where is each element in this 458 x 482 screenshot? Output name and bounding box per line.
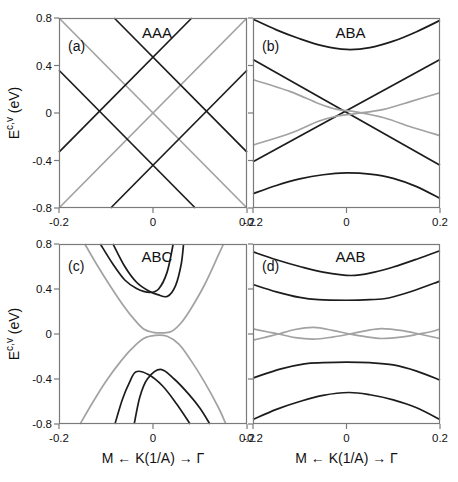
x-axis-title: M ← K(1/A) → Γ [295,450,398,466]
y-tick-label: -0.8 [12,202,52,214]
panel-letter-a: (a) [68,38,85,54]
x-tick-label: -0.2 [236,216,270,228]
x-tick-label: 0.2 [423,216,457,228]
x-tick-label: 0 [136,432,170,444]
panel-frame [60,245,247,424]
x-tick-label: -0.2 [42,432,76,444]
stacking-label-aab: AAB [335,248,365,265]
y-axis-title: Ec,v (eV) [4,87,22,139]
y-axis-title-base: E [6,130,22,139]
y-tick-label: 0.4 [12,283,52,295]
gray-oscillating-band-2 [253,327,440,340]
panel-c-plot [59,244,247,424]
x-tick-label: 0 [330,216,364,228]
x-tick-label: -0.2 [236,432,270,444]
x-tick-label: -0.2 [42,216,76,228]
gray-band-ascending [253,93,440,145]
y-tick-label: -0.8 [12,418,52,430]
y-tick-label: -0.4 [12,155,52,167]
y-axis-title: Ec,v (eV) [4,308,22,360]
panel-b-plot [253,18,440,208]
black-conduction-band-lower [253,281,440,300]
x-tick-label: 0 [330,432,364,444]
black-valence-band-lower [253,392,440,419]
black-lower-hyperbola [253,173,440,199]
y-tick-label: -0.4 [12,373,52,385]
black-valence-band-upper [253,362,440,380]
y-axis-title-unit: (eV) [6,87,22,117]
y-axis-title-base: E [6,351,22,360]
y-axis-title-unit: (eV) [6,308,22,338]
band-structure-figure: (a)AAA-0.200.20.80.40-0.4-0.8Ec,v (eV)(b… [0,0,458,482]
y-tick-label: 0.8 [12,238,52,250]
panel-d-plot [253,244,440,424]
x-tick-label: 0 [136,216,170,228]
panel-letter-d: (d) [262,258,279,274]
gray-valence-cone [80,335,226,424]
panel-letter-c: (c) [68,258,84,274]
stacking-label-abc: ABC [142,248,173,265]
x-axis-title: M ← K(1/A) → Γ [102,450,205,466]
stacking-label-aba: ABA [335,24,365,41]
panel-letter-b: (b) [262,38,279,54]
y-tick-label: 0.8 [12,12,52,24]
panel-a-plot [59,18,247,208]
gray-band-descending [253,80,440,136]
y-tick-label: 0.4 [12,60,52,72]
y-axis-title-superscript: c,v [4,338,15,351]
y-axis-title-superscript: c,v [4,117,15,130]
stacking-label-aaa: AAA [142,24,172,41]
black-valence-band-1 [115,371,190,424]
x-tick-label: 0.2 [423,432,457,444]
